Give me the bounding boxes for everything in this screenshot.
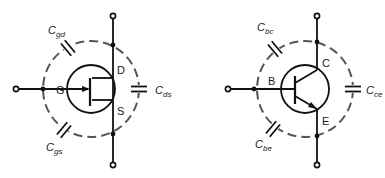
cbc-label: Cbc — [257, 21, 273, 36]
capacitor-bc-icon — [267, 40, 283, 57]
cce-label: Cce — [366, 84, 383, 99]
emitter-terminal[interactable] — [314, 162, 319, 167]
source-label: S — [117, 105, 124, 117]
diagram-canvas: G D S Cgd Cds Cgs — [0, 0, 385, 178]
collector-node — [315, 40, 320, 45]
gate-node — [41, 87, 46, 92]
cgd-label: Cgd — [48, 24, 65, 39]
gate-label: G — [56, 84, 65, 96]
bjt-diagram: B C E Cbc Cce Cbe — [225, 13, 383, 167]
capacitor-ce-icon — [344, 85, 362, 93]
emitter-node — [315, 134, 320, 139]
emitter-label: E — [322, 115, 329, 127]
cgs-label: Cgs — [46, 141, 62, 156]
emitter-arrow-icon — [308, 102, 317, 109]
capacitor-gd-icon — [60, 39, 76, 56]
cbe-label: Cbe — [255, 138, 272, 153]
mosfet-diagram: G D S Cgd Cds Cgs — [13, 13, 171, 167]
source-node — [111, 132, 116, 137]
cds-label: Cds — [155, 84, 171, 99]
drain-node — [111, 43, 116, 48]
collector-label: C — [322, 57, 330, 69]
source-terminal[interactable] — [110, 162, 115, 167]
base-terminal[interactable] — [225, 86, 230, 91]
drain-label: D — [117, 64, 125, 76]
capacitor-gs-icon — [56, 121, 72, 138]
drain-terminal[interactable] — [110, 13, 115, 18]
gate-arrow-icon — [82, 86, 90, 92]
base-node — [252, 87, 257, 92]
base-label: B — [268, 75, 275, 87]
collector-terminal[interactable] — [314, 13, 319, 18]
gate-terminal[interactable] — [13, 86, 18, 91]
capacitor-ds-icon — [130, 85, 148, 93]
